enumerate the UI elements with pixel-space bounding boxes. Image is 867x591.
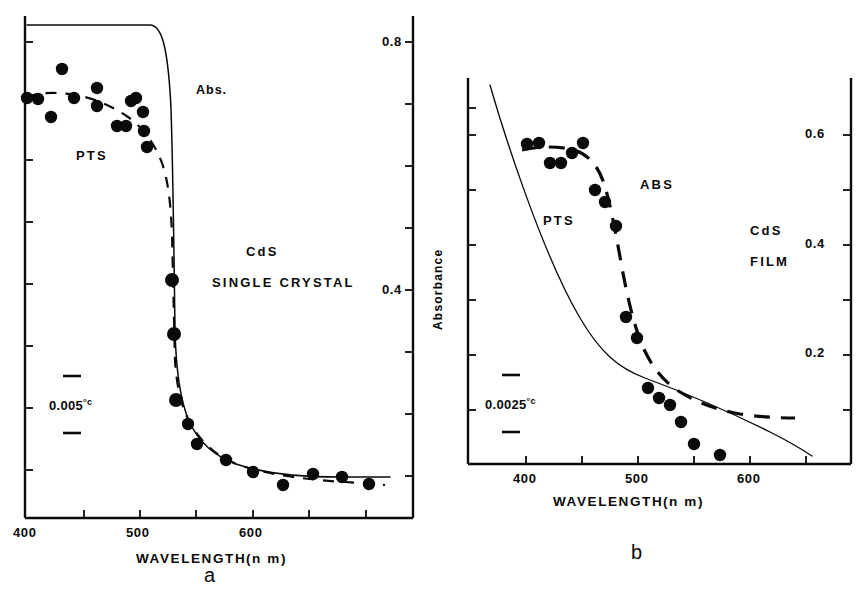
panel-a-scalebar-value: 0.005	[49, 398, 83, 413]
panel-a-ytick-04: 0.4	[382, 282, 402, 297]
panel-b-scalebar-value: 0.0025	[485, 397, 527, 412]
panel-b-xaxis-unit: (n m)	[663, 494, 704, 509]
panel-a-scalebar-unit: °c	[83, 397, 92, 407]
panel-b-letter: b	[631, 541, 642, 564]
panel-a-left-ticks	[25, 42, 33, 470]
panel-a-xaxis-unit: (n m)	[246, 551, 287, 566]
panel-b-sample-type: FILM	[750, 254, 789, 269]
panel-b-xaxis-title: WAVELENGTH	[553, 494, 663, 509]
panel-a-xaxis-title: WAVELENGTH	[136, 551, 246, 566]
panel-b-abs-label: ABS	[640, 177, 674, 192]
panel-b-scalebar-unit: °c	[527, 396, 536, 406]
panel-b-ytick-06: 0.6	[805, 126, 825, 141]
panel-a-xtick-400: 400	[13, 525, 37, 540]
panel-a: 400 500 600 WAVELENGTH (n m) 0.8 0.4 Abs…	[0, 0, 440, 591]
panel-b-ytick-04: 0.4	[805, 236, 825, 251]
panel-a-scalebar-label: 0.005°c	[49, 397, 92, 413]
panel-a-sample-name: CdS	[246, 244, 279, 259]
panel-b-ytick-02: 0.2	[805, 345, 825, 360]
panel-b-pts-label: PTS	[543, 213, 575, 228]
panel-a-xtick-500: 500	[126, 525, 150, 540]
panel-b-xtick-600: 600	[737, 471, 761, 486]
panel-b-xtick-400: 400	[513, 471, 537, 486]
panel-b-sample-name: CdS	[750, 223, 783, 238]
panel-a-pts-label: PTS	[76, 148, 108, 163]
panel-a-letter: a	[204, 564, 215, 587]
panel-a-ytick-08: 0.8	[382, 34, 402, 49]
panel-b-pts-points	[521, 137, 726, 461]
figure-root: 400 500 600 WAVELENGTH (n m) 0.8 0.4 Abs…	[0, 0, 867, 591]
panel-a-abs-label: Abs.	[196, 83, 227, 97]
panel-b-xtick-500: 500	[625, 471, 649, 486]
panel-b: 400 500 600 WAVELENGTH (n m) 0.6 0.4 0.2…	[440, 0, 867, 591]
panel-b-left-ticks	[468, 108, 476, 410]
panel-b-scalebar-label: 0.0025°c	[485, 396, 536, 412]
panel-a-sample-type: SINGLE CRYSTAL	[212, 275, 355, 290]
panel-a-xtick-600: 600	[239, 525, 263, 540]
